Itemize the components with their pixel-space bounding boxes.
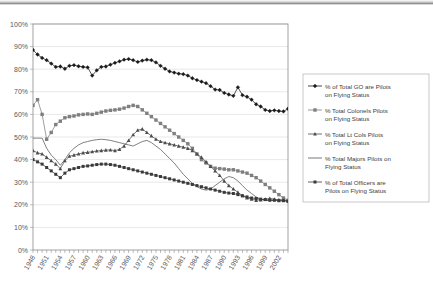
data-point <box>145 172 148 175</box>
data-point <box>227 93 231 97</box>
data-point <box>159 175 162 178</box>
data-point <box>72 114 75 117</box>
data-point <box>68 168 71 171</box>
data-point <box>45 166 48 169</box>
data-point <box>104 163 107 166</box>
data-point <box>277 109 281 113</box>
series-line <box>33 160 288 202</box>
data-point <box>82 165 85 168</box>
data-point <box>131 58 135 62</box>
legend-label: on Flying Status <box>325 115 369 122</box>
data-point <box>141 171 144 174</box>
data-point <box>245 95 249 99</box>
legend-label: % Total Colonels Pilots <box>325 107 388 114</box>
data-point <box>200 155 204 159</box>
data-point <box>118 59 122 63</box>
data-point <box>136 169 139 172</box>
data-point <box>131 104 134 107</box>
legend-label: on Flying Status <box>325 91 369 98</box>
data-point <box>177 135 180 138</box>
data-point <box>313 108 316 111</box>
data-point <box>140 59 144 63</box>
data-point <box>231 187 235 191</box>
data-point <box>59 176 62 179</box>
x-axis-label: 1984 <box>186 254 200 271</box>
series-line <box>33 100 288 201</box>
data-point <box>136 60 140 64</box>
data-point <box>49 159 53 163</box>
window-top-bar <box>0 0 433 5</box>
data-point <box>200 80 204 84</box>
data-point <box>231 94 235 98</box>
data-point <box>264 183 267 186</box>
data-point <box>50 131 53 134</box>
series-line <box>33 50 288 111</box>
data-point <box>54 173 57 176</box>
legend-label: on Flying Status <box>325 139 369 146</box>
data-point <box>45 155 49 159</box>
data-point <box>287 200 290 203</box>
data-point <box>91 164 94 167</box>
x-axis-label: 1975 <box>145 254 159 271</box>
y-axis-label: 30% <box>14 179 28 186</box>
data-point <box>149 58 153 62</box>
data-point <box>195 184 198 187</box>
data-point <box>246 195 249 198</box>
data-point <box>272 108 276 112</box>
data-point <box>100 163 103 166</box>
data-point <box>273 199 276 202</box>
data-point <box>41 163 44 166</box>
data-point <box>218 88 222 92</box>
data-point <box>236 193 239 196</box>
data-point <box>227 168 230 171</box>
data-point <box>104 65 108 69</box>
data-point <box>59 119 62 122</box>
data-point <box>31 104 34 107</box>
data-point <box>31 149 35 153</box>
data-point <box>250 197 253 200</box>
data-point <box>145 112 148 115</box>
data-point <box>232 192 235 195</box>
data-point <box>122 106 125 109</box>
y-axis-label: 0% <box>18 247 28 254</box>
data-point <box>118 165 121 168</box>
data-point <box>100 110 103 113</box>
series-4 <box>32 158 290 203</box>
chart-screenshot: 0%10%20%30%40%50%60%70%80%90%100%1948195… <box>0 0 433 284</box>
data-point <box>118 108 121 111</box>
data-point <box>232 168 235 171</box>
data-point <box>86 65 90 69</box>
data-point <box>173 178 176 181</box>
data-point <box>86 112 89 115</box>
data-point <box>282 199 285 202</box>
x-axis-label: 1972 <box>132 254 146 271</box>
x-axis-label: 1993 <box>227 254 241 271</box>
data-point <box>172 132 175 135</box>
y-axis-label: 70% <box>14 88 28 95</box>
data-point <box>122 58 126 62</box>
data-point <box>223 191 226 194</box>
series-1 <box>31 98 289 202</box>
x-axis-label: 1951 <box>36 254 50 271</box>
data-point <box>268 109 272 113</box>
y-axis-label: 20% <box>14 201 28 208</box>
data-point <box>264 198 267 201</box>
data-point <box>286 107 290 111</box>
x-axis-label: 1996 <box>241 254 255 271</box>
data-point <box>113 164 116 167</box>
data-point <box>36 98 39 101</box>
y-axis-label: 60% <box>14 111 28 118</box>
data-point <box>50 169 53 172</box>
data-point <box>95 163 98 166</box>
data-point <box>191 183 194 186</box>
data-point <box>164 176 167 179</box>
legend-label: % of Total GO are Pilots <box>325 83 391 90</box>
data-point <box>177 180 180 183</box>
x-axis-label: 1954 <box>50 254 64 271</box>
data-point <box>95 112 98 115</box>
x-axis-label: 1990 <box>214 254 228 271</box>
data-point <box>214 189 217 192</box>
line-chart: 0%10%20%30%40%50%60%70%80%90%100%1948195… <box>0 7 433 284</box>
legend-label: % of Total Officers are <box>325 179 386 186</box>
data-point <box>182 139 185 142</box>
